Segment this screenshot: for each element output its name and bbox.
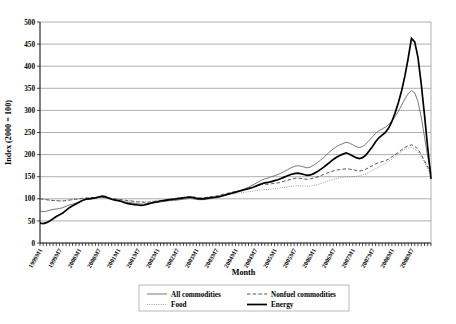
y-tick-label: 250 — [24, 129, 35, 137]
y-tick-label: 200 — [24, 151, 35, 159]
x-tick-label: 2008M7 — [398, 247, 415, 269]
x-tick-label: 2003M1 — [183, 247, 200, 269]
series-line-all-commodities — [40, 91, 431, 212]
chart-svg: 050100150200250300350400450500 1999M1199… — [0, 0, 456, 324]
x-tick-label: 1999M7 — [46, 247, 63, 269]
x-tick-label: 2004M7 — [242, 247, 259, 269]
legend-label-all-commodities: All commodities — [171, 291, 221, 299]
y-gridlines — [40, 22, 431, 221]
x-tick-label: 2006M7 — [320, 247, 337, 269]
x-axis-title: Month — [232, 268, 256, 277]
x-tick-label: 2004M1 — [222, 247, 239, 269]
series-line-nonfuel-commodities — [40, 145, 431, 202]
y-tick-label: 400 — [24, 63, 35, 71]
legend-label-nonfuel-commodities: Nonfuel commodities — [271, 291, 336, 299]
chart-legend: All commoditiesNonfuel commoditiesFoodEn… — [139, 285, 349, 311]
x-tick-label: 2008M1 — [379, 247, 396, 269]
series-line-food — [40, 148, 431, 202]
x-tick-label: 2001M7 — [124, 247, 141, 269]
legend-label-food: Food — [171, 301, 187, 309]
y-tick-label: 100 — [24, 195, 35, 203]
x-tick-label: 2003M7 — [203, 247, 220, 269]
x-tick-label: 2002M1 — [144, 247, 161, 269]
y-axis-tick-labels: 050100150200250300350400450500 — [24, 19, 35, 248]
y-tick-label: 350 — [24, 85, 35, 93]
y-tick-label: 50 — [28, 218, 36, 226]
commodity-price-index-chart: 050100150200250300350400450500 1999M1199… — [0, 0, 456, 324]
x-tick-label: 2000M7 — [85, 247, 102, 269]
y-axis-title: Index (2000 = 100) — [4, 100, 13, 165]
x-tick-label: 2006M1 — [300, 247, 317, 269]
x-axis-tick-labels: 1999M11999M72000M12000M72001M12001M72002… — [27, 247, 415, 269]
x-tick-label: 2007M7 — [359, 247, 376, 269]
x-tick-label: 2005M7 — [281, 247, 298, 269]
y-tick-label: 450 — [24, 41, 35, 49]
legend-label-energy: Energy — [271, 301, 294, 309]
x-tick-label: 2007M1 — [339, 247, 356, 269]
y-tick-label: 0 — [31, 240, 35, 248]
x-tick-label: 2005M1 — [261, 247, 278, 269]
x-tick-label: 1999M1 — [27, 247, 44, 269]
y-tick-label: 300 — [24, 107, 35, 115]
x-tick-label: 2001M1 — [105, 247, 122, 269]
x-tick-label: 2000M1 — [66, 247, 83, 269]
x-tick-label: 2002M7 — [163, 247, 180, 269]
y-tick-label: 500 — [24, 19, 35, 27]
y-tick-label: 150 — [24, 173, 35, 181]
